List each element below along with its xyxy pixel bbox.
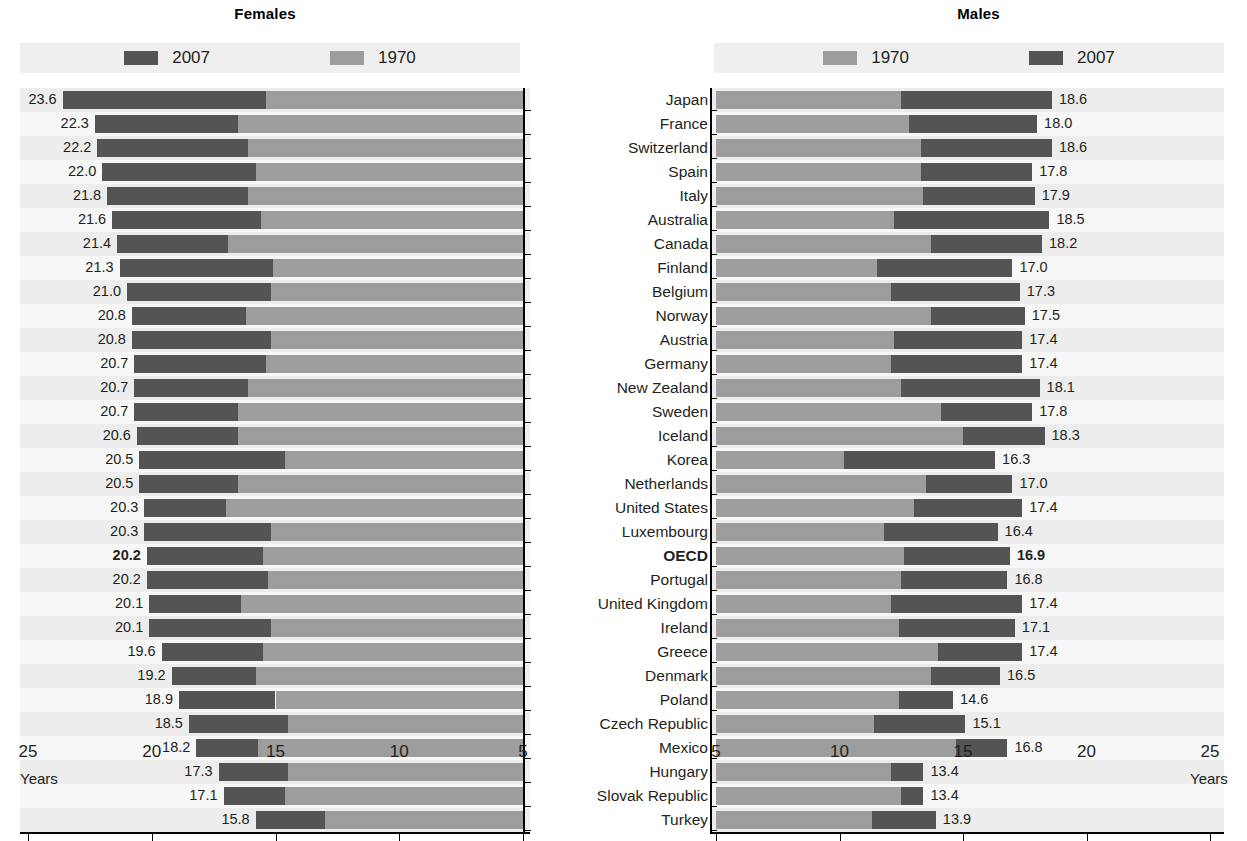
bar-row-males: 17.9 [710,184,1224,208]
bar-segment-2007 [891,283,1019,301]
plot-area-males: 18.618.018.617.817.918.518.217.017.317.5… [710,88,1224,736]
axis-tick [524,422,531,423]
bar-row-males: 17.3 [710,280,1224,304]
bar-segment-1970 [716,787,901,805]
bar-row-females: 20.5 [20,472,530,496]
bar-segment-1970 [226,499,523,517]
bar-row-males: 18.0 [710,112,1224,136]
bar-segment-1970 [288,763,523,781]
bar-segment-2007 [144,499,226,517]
axis-tick [524,614,531,615]
bar-segment-1970 [256,667,523,685]
legend-label-2007: 2007 [1077,48,1115,68]
bar-row-females: 18.9 [20,688,530,712]
bar-value-label-females: 20.6 [95,426,131,445]
bar-segment-1970 [238,427,523,445]
legend-females: 2007 1970 [20,43,520,73]
country-label: Australia [540,208,708,232]
bar-value-label-females: 17.3 [177,762,213,781]
bar-row-females: 20.3 [20,520,530,544]
bar-value-label-females: 20.5 [97,474,133,493]
bar-segment-2007 [147,571,268,589]
bar-segment-2007 [874,715,965,733]
axis-tick [523,834,524,841]
bar-segment-1970 [288,715,523,733]
bar-segment-2007 [139,475,238,493]
bar-segment-1970 [716,427,963,445]
bar-segment-1970 [716,163,921,181]
bar-segment-1970 [716,235,931,253]
bar-row-males: 17.0 [710,472,1224,496]
axis-tick [963,834,964,841]
bar-value-label-females: 15.8 [214,810,250,829]
bar-segment-2007 [117,235,228,253]
bar-value-label-females: 20.3 [102,522,138,541]
bar-row-males: 16.3 [710,448,1224,472]
axis-tick [399,834,400,841]
bar-segment-2007 [926,475,1012,493]
bar-segment-2007 [877,259,1013,277]
bar-segment-2007 [909,115,1037,133]
bar-segment-1970 [716,115,909,133]
bar-row-males: 17.4 [710,328,1224,352]
bar-value-label-males: 17.5 [1032,306,1060,325]
axis-spine [710,88,712,832]
bar-value-label-males: 17.3 [1027,282,1055,301]
axis-tick [524,590,531,591]
country-label: Korea [540,448,708,472]
bar-segment-2007 [884,523,998,541]
bar-segment-1970 [716,187,923,205]
bar-row-males: 18.6 [710,136,1224,160]
legend-item-2007: 2007 [124,48,210,68]
bar-segment-2007 [63,91,266,109]
bar-segment-1970 [716,691,899,709]
bar-value-label-females: 20.7 [92,378,128,397]
country-label: Greece [540,640,708,664]
bar-row-males: 18.6 [710,88,1224,112]
bar-value-label-males: 18.1 [1047,378,1075,397]
legend-item-1970: 1970 [330,48,416,68]
bar-segment-1970 [285,451,523,469]
bar-value-label-males: 17.8 [1039,162,1067,181]
bar-value-label-males: 18.6 [1059,138,1087,157]
axis-tick [1210,834,1211,841]
axis-tick [524,374,531,375]
plot-area-females: 23.622.322.222.021.821.621.421.321.020.8… [20,88,530,736]
country-label: Finland [540,256,708,280]
bar-row-females: 20.7 [20,376,530,400]
bar-segment-2007 [923,187,1034,205]
bar-row-males: 16.4 [710,520,1224,544]
bar-segment-1970 [716,547,904,565]
bar-segment-2007 [921,163,1032,181]
bar-segment-2007 [134,403,238,421]
bar-segment-1970 [238,115,523,133]
bar-segment-1970 [266,355,523,373]
bar-segment-1970 [716,571,901,589]
bar-value-label-females: 22.3 [53,114,89,133]
axis-tick [524,182,531,183]
bar-segment-1970 [246,307,523,325]
axis-tick [152,834,153,841]
chart-females: 23.622.322.222.021.821.621.421.321.020.8… [20,88,530,736]
bar-segment-1970 [716,307,931,325]
country-label: United States [540,496,708,520]
bar-row-females: 17.1 [20,784,530,808]
bar-segment-1970 [273,259,523,277]
bar-value-label-females: 20.7 [92,402,128,421]
country-label: Poland [540,688,708,712]
bar-segment-2007 [256,811,325,829]
bar-value-label-females: 21.0 [85,282,121,301]
axis-tick [524,662,531,663]
country-label: France [540,112,708,136]
bar-value-label-females: 20.2 [105,546,141,565]
bar-segment-2007 [132,331,271,349]
bar-row-males: 17.8 [710,400,1224,424]
bar-segment-2007 [844,451,995,469]
bar-segment-1970 [716,499,914,517]
bar-segment-1970 [271,619,523,637]
bar-row-females: 20.2 [20,544,530,568]
bar-segment-1970 [716,523,884,541]
bar-segment-1970 [261,211,523,229]
country-label: Sweden [540,400,708,424]
axis-tick [524,686,531,687]
